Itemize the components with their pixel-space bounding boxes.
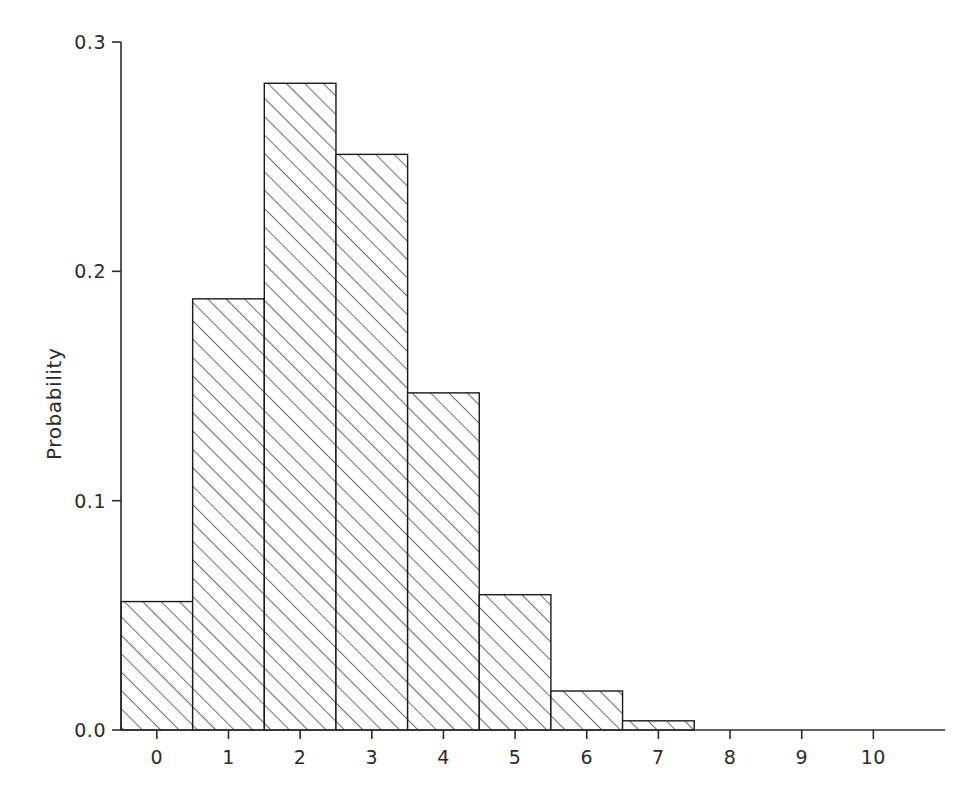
x-tick-label-0: 0 <box>151 746 164 768</box>
x-ticks-group <box>157 730 874 739</box>
bar-rect[interactable] <box>551 691 623 730</box>
x-tick-label-4: 4 <box>437 746 450 768</box>
bar-4[interactable] <box>408 393 480 730</box>
x-tick-label-1: 1 <box>222 746 235 768</box>
x-tick-label-10: 10 <box>861 746 886 768</box>
bar-rect[interactable] <box>121 602 193 730</box>
x-tick-label-8: 8 <box>724 746 737 768</box>
bar-rect[interactable] <box>264 83 336 730</box>
x-tick-label-3: 3 <box>365 746 378 768</box>
x-tick-label-7: 7 <box>652 746 665 768</box>
plot-canvas <box>0 0 979 788</box>
bar-1[interactable] <box>193 299 265 730</box>
x-tick-label-5: 5 <box>509 746 522 768</box>
bar-rect[interactable] <box>336 154 408 730</box>
bar-7[interactable] <box>623 721 695 730</box>
bar-rect[interactable] <box>193 299 265 730</box>
y-tick-label-0.3: 0.3 <box>16 31 106 53</box>
bar-rect[interactable] <box>408 393 480 730</box>
bar-3[interactable] <box>336 154 408 730</box>
bar-6[interactable] <box>551 691 623 730</box>
histogram-figure: 0.00.10.20.3 012345678910 Probability <box>0 0 979 788</box>
x-tick-label-9: 9 <box>795 746 808 768</box>
y-tick-label-0.0: 0.0 <box>16 719 106 741</box>
y-ticks-group <box>112 42 121 730</box>
x-tick-label-6: 6 <box>580 746 593 768</box>
y-tick-label-0.2: 0.2 <box>16 260 106 282</box>
bar-rect[interactable] <box>479 595 551 730</box>
bar-rect[interactable] <box>623 721 695 730</box>
y-tick-label-0.1: 0.1 <box>16 490 106 512</box>
y-axis-title: Probability <box>42 348 66 460</box>
bar-2[interactable] <box>264 83 336 730</box>
x-tick-label-2: 2 <box>294 746 307 768</box>
bar-5[interactable] <box>479 595 551 730</box>
bar-0[interactable] <box>121 602 193 730</box>
bars-group <box>121 83 694 730</box>
